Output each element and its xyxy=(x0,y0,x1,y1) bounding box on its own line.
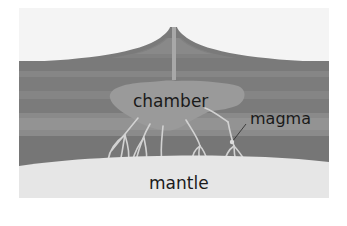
magma-label: magma xyxy=(250,111,311,127)
volcano-conduit xyxy=(172,27,176,80)
mantle-label: mantle xyxy=(149,175,209,192)
chamber-label: chamber xyxy=(133,93,208,110)
magma-pointer-dot xyxy=(230,140,234,144)
